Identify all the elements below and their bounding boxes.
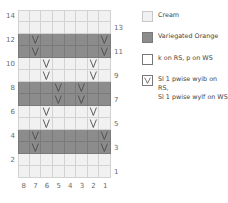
chart-cell xyxy=(65,46,77,58)
legend-orange: Variegated Orange xyxy=(142,32,218,43)
chart-cell xyxy=(65,118,77,130)
chart-cell xyxy=(41,106,53,118)
chart-cell xyxy=(53,106,65,118)
row-label: 1 xyxy=(114,168,128,176)
slip-stitch-icon xyxy=(88,118,99,129)
chart-cell xyxy=(99,34,111,46)
chart-cell xyxy=(76,106,88,118)
chart-cell xyxy=(65,154,77,166)
chart-cell xyxy=(88,106,100,118)
chart-cell xyxy=(65,142,77,154)
column-label: 7 xyxy=(29,182,41,190)
slip-stitch-icon xyxy=(41,70,52,81)
row-label: 14 xyxy=(3,12,15,20)
chart-cell xyxy=(99,154,111,166)
chart-cell xyxy=(30,118,42,130)
chart-cell xyxy=(76,154,88,166)
chart-cell xyxy=(88,46,100,58)
chart-cell xyxy=(88,94,100,106)
slip-stitch-icon xyxy=(142,75,153,86)
column-label: 6 xyxy=(41,182,53,190)
chart-cell xyxy=(65,34,77,46)
chart-cell xyxy=(76,70,88,82)
chart-cell xyxy=(18,166,30,178)
chart-cell xyxy=(65,22,77,34)
slip-stitch-icon xyxy=(76,94,87,105)
row-label: 7 xyxy=(114,96,128,104)
chart-cell xyxy=(30,70,42,82)
slip-stitch-icon xyxy=(30,34,41,45)
column-label: 5 xyxy=(53,182,65,190)
chart-cell xyxy=(65,82,77,94)
chart-cell xyxy=(88,22,100,34)
row-label: 12 xyxy=(3,36,15,44)
chart-cell xyxy=(76,166,88,178)
chart-cell xyxy=(99,130,111,142)
column-label: 2 xyxy=(88,182,100,190)
chart-cell xyxy=(18,22,30,34)
chart-cell xyxy=(18,10,30,22)
chart-cell xyxy=(53,142,65,154)
chart-cell xyxy=(76,94,88,106)
chart-cell xyxy=(99,22,111,34)
legend-cream: Cream xyxy=(142,11,179,22)
chart-cell xyxy=(41,118,53,130)
chart-cell xyxy=(88,34,100,46)
chart-cell xyxy=(41,34,53,46)
legend-orange-label: Variegated Orange xyxy=(158,32,218,41)
column-label: 4 xyxy=(64,182,76,190)
chart-cell xyxy=(76,130,88,142)
chart-cell xyxy=(76,10,88,22)
chart-cell xyxy=(99,94,111,106)
chart-cell xyxy=(18,82,30,94)
row-label: 8 xyxy=(3,84,15,92)
chart-cell xyxy=(76,118,88,130)
column-label: 3 xyxy=(76,182,88,190)
legend-knit: k on RS, p on WS xyxy=(142,54,213,65)
legend-slip-line1: Sl 1 pwise wyib on RS, xyxy=(158,75,228,93)
chart-cell xyxy=(99,118,111,130)
chart-cell xyxy=(65,130,77,142)
chart-cell xyxy=(53,70,65,82)
chart-cell xyxy=(99,46,111,58)
slip-stitch-icon xyxy=(30,130,41,141)
chart-cell xyxy=(18,118,30,130)
slip-stitch-icon xyxy=(88,106,99,117)
chart-cell xyxy=(41,94,53,106)
slip-stitch-icon xyxy=(88,70,99,81)
chart-cell xyxy=(53,10,65,22)
chart-cell xyxy=(99,82,111,94)
chart-cell xyxy=(76,34,88,46)
column-label: 1 xyxy=(99,182,111,190)
legend-slip-line2: Sl 1 pwise wylf on WS xyxy=(158,93,228,102)
chart-cell xyxy=(18,58,30,70)
legend-knit-label: k on RS, p on WS xyxy=(158,54,213,63)
chart-cell xyxy=(41,70,53,82)
chart-cell xyxy=(88,10,100,22)
slip-stitch-icon xyxy=(76,82,87,93)
chart-cell xyxy=(76,58,88,70)
cream-swatch xyxy=(142,11,153,22)
chart-cell xyxy=(53,130,65,142)
row-label: 11 xyxy=(114,48,128,56)
chart-cell xyxy=(18,46,30,58)
chart-cell xyxy=(18,130,30,142)
slip-stitch-icon xyxy=(99,34,110,45)
chart-cell xyxy=(41,82,53,94)
chart-cell xyxy=(53,58,65,70)
chart-cell xyxy=(30,142,42,154)
chart-cell xyxy=(65,58,77,70)
slip-stitch-icon xyxy=(88,58,99,69)
chart-cell xyxy=(30,106,42,118)
chart-cell xyxy=(53,22,65,34)
chart-cell xyxy=(65,106,77,118)
chart-cell xyxy=(41,154,53,166)
row-label: 9 xyxy=(114,72,128,80)
chart-cell xyxy=(65,166,77,178)
chart-cell xyxy=(30,130,42,142)
chart-cell xyxy=(41,22,53,34)
slip-stitch-icon xyxy=(99,46,110,57)
chart-cell xyxy=(53,94,65,106)
chart-cell xyxy=(30,22,42,34)
knit-swatch xyxy=(142,54,153,65)
